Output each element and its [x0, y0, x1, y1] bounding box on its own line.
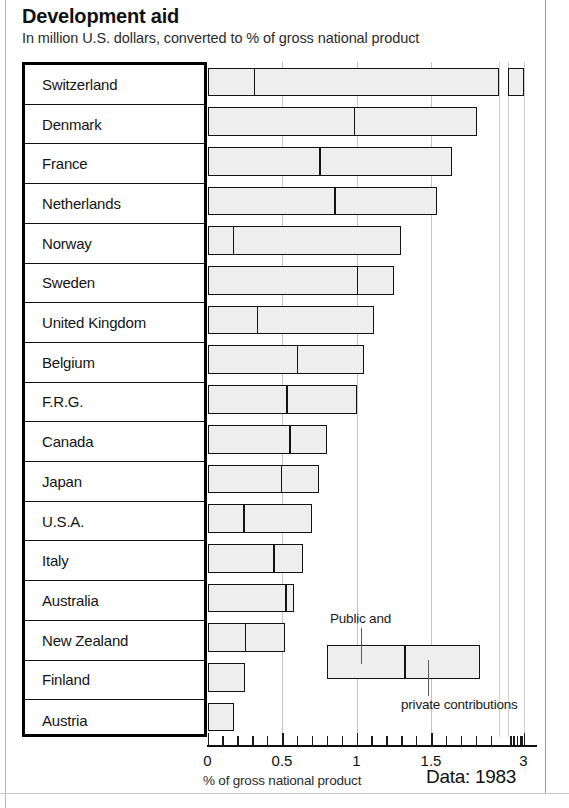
x-tick-label-0: 0 [203, 752, 211, 769]
x-tick-minor [371, 736, 372, 745]
legend-sample-bar [327, 645, 480, 679]
bar-segment-total [208, 504, 312, 533]
page-border-bottom [0, 793, 569, 794]
category-row-japan: Japan [25, 462, 204, 502]
bar-continuation-switzerland [508, 68, 524, 97]
category-label: Japan [25, 473, 82, 490]
category-label: Sweden [25, 274, 95, 291]
bar-segment-divider [354, 107, 356, 136]
axis-break-rule-2 [508, 62, 509, 737]
category-row-sweden: Sweden [25, 264, 204, 304]
x-tick-minor [237, 736, 238, 745]
category-label-column: SwitzerlandDenmarkFranceNetherlandsNorwa… [22, 62, 207, 737]
bar-segment-divider [334, 187, 336, 216]
x-tick-minor [297, 736, 298, 745]
category-row-netherlands: Netherlands [25, 184, 204, 224]
category-label: Belgium [25, 354, 95, 371]
x-tick-minor [491, 736, 492, 745]
bar-segment-total [208, 703, 235, 732]
category-row-finland: Finland [25, 661, 204, 701]
bar-segment-divider [257, 306, 259, 335]
x-tick-minor [513, 736, 514, 745]
x-tick-minor [222, 736, 223, 745]
category-label: U.S.A. [25, 513, 84, 530]
bar-segment-divider [297, 345, 299, 374]
chart-page: Development aid In million U.S. dollars,… [0, 0, 569, 808]
x-tick-minor [517, 736, 518, 745]
x-tick-major-0.5 [282, 733, 284, 745]
bar-segment-divider [245, 623, 247, 652]
category-row-belgium: Belgium [25, 343, 204, 383]
x-tick-minor [386, 736, 387, 745]
gridline-3 [524, 62, 525, 737]
legend-leader-public [361, 628, 362, 664]
x-tick-minor [446, 736, 447, 745]
bar-segment-total [208, 107, 478, 136]
legend-label-private: private contributions [401, 697, 518, 712]
x-tick-major-1.5 [431, 733, 433, 745]
bar-segment-divider [254, 68, 256, 97]
bar-segment-total [208, 226, 402, 255]
bar-segment-total [208, 385, 357, 414]
category-label: Netherlands [25, 195, 121, 212]
bar-segment-divider [289, 425, 291, 454]
bar-segment-total [208, 266, 394, 295]
bar-segment-divider [233, 226, 235, 255]
x-tick-minor [510, 736, 511, 745]
x-tick-minor [327, 736, 328, 745]
category-label: Norway [25, 235, 92, 252]
x-tick-minor [342, 736, 343, 745]
bar-segment-total [208, 663, 245, 692]
category-label: Italy [25, 552, 69, 569]
category-row-f-r-g: F.R.G. [25, 383, 204, 423]
bar-segment-total [208, 465, 320, 494]
bar-segment-divider [285, 584, 287, 613]
legend-leader-private [428, 660, 429, 696]
category-row-new-zealand: New Zealand [25, 621, 204, 661]
bar-segment-divider [273, 544, 275, 573]
category-label: France [25, 155, 88, 172]
x-tick-minor [267, 736, 268, 745]
bar-segment-total [208, 425, 327, 454]
category-row-canada: Canada [25, 422, 204, 462]
category-label: F.R.G. [25, 393, 83, 410]
x-tick-minor [521, 736, 522, 745]
bar-segment-total [208, 544, 303, 573]
x-tick-label-1: 1 [352, 752, 360, 769]
bar-segment-total [208, 187, 437, 216]
category-label: New Zealand [25, 632, 128, 649]
bar-segment-total [208, 147, 452, 176]
bar-segment-divider [243, 504, 245, 533]
category-label: Denmark [25, 116, 101, 133]
category-row-u-s-a: U.S.A. [25, 502, 204, 542]
legend-label-public: Public and [330, 611, 391, 626]
x-tick-minor [476, 736, 477, 745]
category-label: Austria [25, 712, 87, 729]
legend-bar-divider [404, 645, 406, 679]
category-label: Australia [25, 592, 99, 609]
category-row-united-kingdom: United Kingdom [25, 303, 204, 343]
category-row-france: France [25, 144, 204, 184]
category-label: United Kingdom [25, 314, 146, 331]
axis-break-rule-1 [499, 62, 500, 737]
bar-segment-divider [319, 147, 321, 176]
category-row-italy: Italy [25, 541, 204, 581]
x-tick-minor [252, 736, 253, 745]
category-row-australia: Australia [25, 581, 204, 621]
bar-segment-divider [286, 385, 288, 414]
category-row-switzerland: Switzerland [25, 65, 204, 105]
category-row-austria: Austria [25, 700, 204, 740]
bar-segment-divider [357, 266, 359, 295]
x-tick-major-1 [357, 733, 359, 745]
x-tick-minor [401, 736, 402, 745]
category-label: Switzerland [25, 76, 117, 93]
category-row-norway: Norway [25, 224, 204, 264]
x-tick-minor [461, 736, 462, 745]
x-tick-minor [416, 736, 417, 745]
x-tick-label-0.5: 0.5 [272, 752, 293, 769]
bar-segment-total [208, 345, 364, 374]
category-label: Canada [25, 433, 93, 450]
x-tick-major-0 [208, 733, 210, 745]
bar-segment-total [208, 306, 375, 335]
x-axis-line [207, 745, 537, 747]
